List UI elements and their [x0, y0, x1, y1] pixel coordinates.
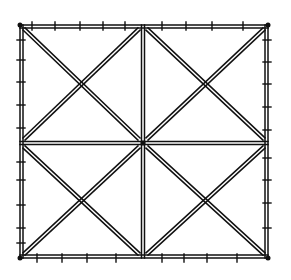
joint-node — [266, 256, 271, 261]
brace-diagonal-3-b — [148, 148, 265, 255]
brace-diagonal-3-b — [146, 146, 263, 253]
brace-diagonal-1-a — [148, 28, 265, 138]
joint-node — [18, 256, 23, 261]
brace-diagonal-1-b — [148, 30, 265, 140]
brace-diagonal-0-b — [25, 30, 140, 140]
center-cross-members — [20, 25, 268, 258]
brace-diagonal-0-a — [23, 30, 138, 140]
brace-diagonal-3-a — [146, 148, 263, 255]
frame-drawing — [0, 0, 291, 280]
braced-frame-diagram — [0, 0, 291, 280]
joint-node — [266, 23, 271, 28]
brace-diagonal-3-a — [148, 146, 265, 253]
brace-diagonal-2-a — [25, 146, 140, 253]
joint-node — [18, 23, 23, 28]
brace-diagonal-2-b — [25, 148, 140, 255]
brace-diagonal-1-b — [146, 28, 263, 138]
brace-diagonal-1-a — [146, 30, 263, 140]
brace-diagonal-0-a — [25, 28, 140, 138]
brace-diagonal-2-b — [23, 146, 138, 253]
brace-diagonal-2-a — [23, 148, 138, 255]
brace-diagonal-0-b — [23, 28, 138, 138]
